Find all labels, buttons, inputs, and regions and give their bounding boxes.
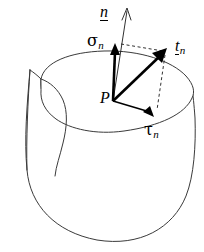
stress-traction-diagram: n σn tn τn P	[0, 0, 204, 252]
label-normal-stress-symbol: σ	[87, 31, 98, 50]
label-normal-stress: σn	[87, 33, 104, 51]
label-normal-stress-subscript: n	[98, 39, 104, 51]
label-point-p: P	[100, 90, 110, 106]
label-shear-stress: τn	[144, 122, 159, 140]
label-unit-normal-symbol: n	[100, 3, 108, 21]
normal-stress-arrowhead-icon	[110, 43, 120, 55]
label-traction-symbol: t	[175, 37, 179, 55]
label-unit-normal: n	[100, 4, 108, 20]
label-shear-stress-subscript: n	[153, 128, 159, 140]
label-traction-subscript: n	[180, 44, 186, 56]
label-traction: tn	[175, 38, 185, 56]
construction-line-top	[121, 44, 163, 51]
label-shear-stress-symbol: τ	[144, 120, 153, 139]
label-point-p-symbol: P	[100, 89, 110, 106]
